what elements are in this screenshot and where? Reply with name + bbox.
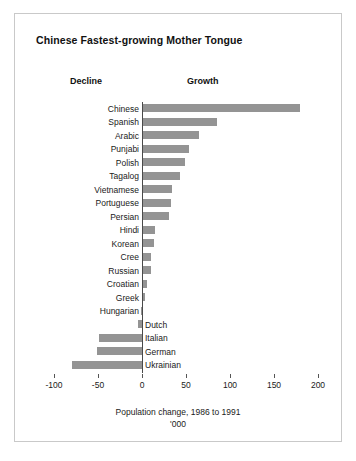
bar-category-label: Polish [116,158,139,168]
bar [143,199,171,207]
bar [143,145,189,153]
bar [143,158,185,166]
bar-row: Italian [15,332,343,346]
bar-category-label: Hungarian [100,306,139,316]
bar-category-label: Chinese [108,104,139,114]
decline-heading: Decline [70,76,102,86]
x-axis-tick-label: 200 [311,380,325,390]
bar-row: Chinese [15,102,343,116]
bar [143,131,199,139]
x-axis-tick-label: 100 [223,380,237,390]
bar [143,293,145,301]
bar-category-label: Hindi [120,225,139,235]
bar-category-label: Portuguese [96,198,139,208]
bar-row: German [15,345,343,359]
bar-category-label: Vietnamese [94,185,139,195]
bar-row: Portuguese [15,197,343,211]
bar [143,253,151,261]
bar [138,320,142,328]
growth-heading: Growth [187,76,219,86]
bar-category-label: Greek [116,293,139,303]
x-axis-tick-label: -100 [45,380,62,390]
bar-row: Punjabi [15,143,343,157]
bar-row: Spanish [15,116,343,130]
x-axis-tick-label: 50 [181,380,190,390]
bar-row: Croatian [15,278,343,292]
x-axis-tick [142,374,143,378]
bar [143,118,217,126]
bar-row: Tagalog [15,170,343,184]
bar [143,185,172,193]
bar-row: Arabic [15,129,343,143]
bar [143,239,154,247]
x-axis-units: '000 [15,419,341,429]
bar-category-label: Persian [110,212,139,222]
x-axis-tick [318,374,319,378]
bar [97,347,142,355]
bar-row: Vietnamese [15,183,343,197]
bar-category-label: Cree [121,252,139,262]
bar-row: Cree [15,251,343,265]
x-axis-tick-label: 150 [267,380,281,390]
bar-row: Greek [15,291,343,305]
x-axis-tick-label: -50 [92,380,104,390]
bar-category-label: Punjabi [111,144,139,154]
bar [143,266,151,274]
bar-category-label: Croatian [107,279,139,289]
bar-category-label: Arabic [115,131,139,141]
x-axis-tick [274,374,275,378]
bar-category-label: Tagalog [109,171,139,181]
bar-category-label: Italian [145,333,168,343]
bar-row: Persian [15,210,343,224]
bar-chart-plot: ChineseSpanishArabicPunjabiPolishTagalog… [15,102,343,374]
bar-row: Korean [15,237,343,251]
bar-row: Hindi [15,224,343,238]
bar [141,307,142,315]
bar-category-label: Korean [112,239,139,249]
x-axis-title: Population change, 1986 to 1991 [15,407,341,417]
x-axis-tick-label: 0 [140,380,145,390]
bar-row: Hungarian [15,305,343,319]
x-axis-tick [186,374,187,378]
x-axis-tick [230,374,231,378]
bar [72,361,142,369]
x-axis-tick [98,374,99,378]
bar-category-label: Dutch [145,320,167,330]
bar-row: Ukrainian [15,359,343,373]
bar-row: Polish [15,156,343,170]
chart-frame: Chinese Fastest-growing Mother Tongue De… [14,13,342,442]
x-axis: -100-50050100150200 [15,374,343,404]
bar-category-label: Ukrainian [145,360,181,370]
page-title: Chinese Fastest-growing Mother Tongue [36,34,243,46]
bar-row: Dutch [15,318,343,332]
bar-category-label: Spanish [108,117,139,127]
x-axis-tick [54,374,55,378]
bar [143,104,300,112]
bar [143,172,180,180]
bar-row: Russian [15,264,343,278]
bar [143,212,169,220]
bar [143,226,155,234]
bar-category-label: Russian [108,266,139,276]
bar-category-label: German [145,347,176,357]
bar [99,334,142,342]
bar [143,280,147,288]
